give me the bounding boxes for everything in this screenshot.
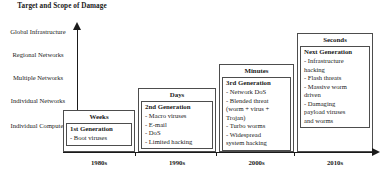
y-axis-title: Target and Scope of Damage [12, 2, 112, 12]
x-axis-tick [216, 152, 217, 156]
x-axis-label-1980s: 1980s [63, 158, 135, 167]
generation-1st-item: - Boot viruses [70, 134, 128, 143]
generation-3rd-box: 3rd Generation - Network DoS - Blended t… [222, 77, 291, 151]
generation-next-timeframe: Seconds [300, 35, 370, 45]
generation-group-2nd: Days 2nd Generation - Macro viruses - E-… [138, 88, 216, 152]
generation-3rd-timeframe: Minutes [222, 66, 291, 76]
x-axis-tick [135, 152, 136, 156]
generation-3rd-title: 3rd Generation [226, 79, 287, 88]
generation-2nd-box: 2nd Generation - Macro viruses - E-mail … [141, 101, 213, 150]
x-axis-label-2010s: 2010s [297, 158, 373, 167]
y-axis-label-global-infrastructure: Global Infrastructure [2, 28, 74, 36]
x-axis-label-1990s: 1990s [138, 158, 216, 167]
generation-1st-box: 1st Generation - Boot viruses [66, 123, 132, 146]
generation-group-next: Seconds Next Generation - Infrastructure… [297, 33, 373, 152]
generation-2nd-title: 2nd Generation [145, 103, 209, 112]
generation-group-1st: Weeks 1st Generation - Boot viruses [63, 110, 135, 152]
generation-1st-timeframe: Weeks [66, 112, 132, 122]
generation-next-title: Next Generation [304, 48, 366, 57]
x-axis-label-2000s: 2000s [219, 158, 294, 167]
generation-next-item: - Flash threats [304, 74, 366, 83]
y-axis-label-individual-networks: Individual Networks [2, 97, 74, 105]
x-axis-line [63, 152, 373, 153]
generation-2nd-item: - DoS [145, 129, 209, 138]
y-axis-label-multiple-networks: Multiple Networks [2, 74, 74, 82]
generation-2nd-item: - E-mail [145, 121, 209, 130]
generation-3rd-item: - Blended threat (worm + virus + Trojan) [226, 97, 287, 123]
generation-2nd-timeframe: Days [141, 90, 213, 100]
generation-next-item: - Infrastructure hacking [304, 57, 366, 74]
x-axis-tick [294, 152, 295, 156]
generation-next-item: - Damaging payload viruses and worms [304, 100, 366, 126]
generation-3rd-item: - Widespread system hacking [226, 131, 287, 148]
generation-next-box: Next Generation - Infrastructure hacking… [300, 46, 370, 129]
generation-group-3rd: Minutes 3rd Generation - Network DoS - B… [219, 64, 294, 152]
generation-2nd-item: - Limited hacking [145, 138, 209, 147]
generation-3rd-item: - Turbo worms [226, 122, 287, 131]
generation-2nd-item: - Macro viruses [145, 112, 209, 121]
threat-evolution-diagram: Target and Scope of Damage Global Infras… [0, 0, 389, 177]
y-axis-label-regional-networks: Regional Networks [2, 51, 74, 59]
generation-3rd-item: - Network DoS [226, 88, 287, 97]
generation-next-item: - Massive worm driven [304, 83, 366, 100]
generation-1st-title: 1st Generation [70, 125, 128, 134]
x-axis-arrow-icon [372, 148, 380, 156]
